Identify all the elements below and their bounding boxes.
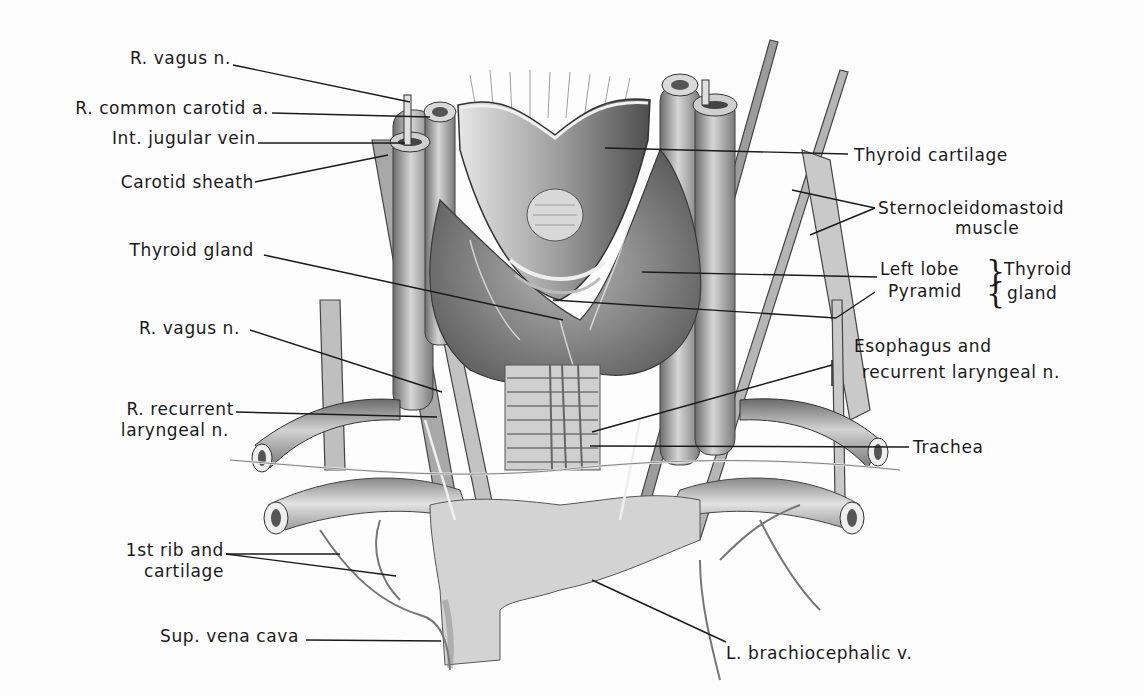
label-first-rib-line2: cartilage xyxy=(144,561,224,581)
label-first-rib-line1: 1st rib and xyxy=(126,540,224,560)
label-esophagus-line1: Esophagus and xyxy=(854,336,992,356)
label-r-recurrent-line1: R. recurrent xyxy=(126,399,234,419)
brace-pyramid-icon: { xyxy=(986,278,1005,308)
label-thyroid-cartilage: Thyroid cartilage xyxy=(854,145,1008,165)
label-sup-vena-cava: Sup. vena cava xyxy=(160,626,299,646)
anatomy-figure: R. vagus n. R. common carotid a. Int. ju… xyxy=(0,0,1144,696)
label-trachea: Trachea xyxy=(913,437,984,457)
label-r-vagus-lower: R. vagus n. xyxy=(139,318,240,338)
label-sternocleidomastoid: Sternocleidomastoid xyxy=(878,198,1064,218)
label-r-recurrent-line2: laryngeal n. xyxy=(121,420,229,440)
label-muscle: muscle xyxy=(955,218,1019,238)
label-int-jugular-vein: Int. jugular vein xyxy=(112,128,256,148)
label-r-vagus-upper: R. vagus n. xyxy=(130,48,231,68)
label-l-brachiocephalic: L. brachiocephalic v. xyxy=(726,643,912,663)
label-left-lobe: Left lobe xyxy=(880,259,959,279)
label-esophagus-line2: recurrent laryngeal n. xyxy=(862,362,1060,382)
label-thyroid-group-line1: Thyroid xyxy=(1004,259,1072,279)
label-carotid-sheath: Carotid sheath xyxy=(121,172,254,192)
label-thyroid-gland: Thyroid gland xyxy=(130,240,254,260)
label-thyroid-group-line2: gland xyxy=(1007,283,1058,303)
trachea-shape xyxy=(505,365,600,470)
label-r-common-carotid: R. common carotid a. xyxy=(75,98,269,118)
label-pyramid: Pyramid xyxy=(888,281,962,301)
